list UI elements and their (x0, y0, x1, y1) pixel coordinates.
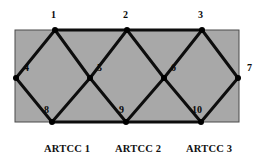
graph-node-5[interactable] (87, 75, 93, 81)
sector-label-2: ARTCC 2 (115, 143, 161, 154)
graph-node-6[interactable] (161, 75, 167, 81)
node-label-7: 7 (247, 63, 252, 73)
node-label-4: 4 (24, 63, 29, 73)
node-label-1: 1 (51, 10, 56, 20)
node-label-2: 2 (123, 10, 128, 20)
sector-label-3: ARTCC 3 (186, 143, 232, 154)
graph-node-9[interactable] (123, 119, 129, 125)
sector-label-1: ARTCC 1 (44, 143, 90, 154)
graph-node-2[interactable] (124, 27, 130, 33)
diagram-canvas: 12345678910 ARTCC 1ARTCC 2ARTCC 3 (0, 0, 269, 166)
node-label-3: 3 (198, 10, 203, 20)
node-label-10: 10 (192, 105, 202, 115)
graph-node-8[interactable] (49, 119, 55, 125)
node-label-5: 5 (97, 63, 102, 73)
node-label-8: 8 (44, 105, 49, 115)
graph-node-3[interactable] (199, 27, 205, 33)
graph-node-7[interactable] (235, 75, 241, 81)
node-label-6: 6 (171, 63, 176, 73)
graph-node-4[interactable] (13, 75, 19, 81)
node-label-9: 9 (119, 105, 124, 115)
graph-node-10[interactable] (198, 119, 204, 125)
network-graph-svg (0, 0, 269, 166)
graph-node-1[interactable] (52, 27, 58, 33)
